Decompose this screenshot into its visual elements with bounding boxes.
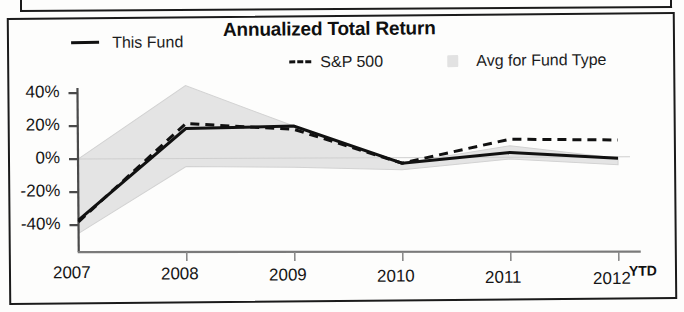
x-axis-tick-label: 2009: [269, 265, 307, 285]
x-axis-tick-label: 2007: [53, 263, 91, 283]
ytd-annotation: YTD: [629, 263, 657, 279]
y-axis-tick-label: -20%: [0, 181, 60, 201]
x-axis-tick-label: 2010: [377, 266, 415, 286]
x-axis-tick-label: 2011: [485, 268, 522, 288]
x-axis-tick-label: 2012: [593, 269, 631, 289]
x-axis-line: [78, 248, 641, 256]
y-axis-line: [77, 88, 78, 252]
chart-screenshot: Annualized Total Return This Fund S&P 50…: [0, 0, 684, 312]
y-axis-tick-label: 20%: [0, 115, 60, 135]
y-axis-tick-label: -40%: [0, 214, 61, 234]
y-axis-tick-label: 0%: [0, 148, 60, 168]
scan-artifact: [6, 303, 126, 308]
plot-area: [0, 0, 684, 312]
x-axis-tick-label: 2008: [161, 264, 199, 284]
y-axis-tick-label: 40%: [0, 82, 60, 102]
chart-content: Annualized Total Return This Fund S&P 50…: [0, 0, 684, 312]
